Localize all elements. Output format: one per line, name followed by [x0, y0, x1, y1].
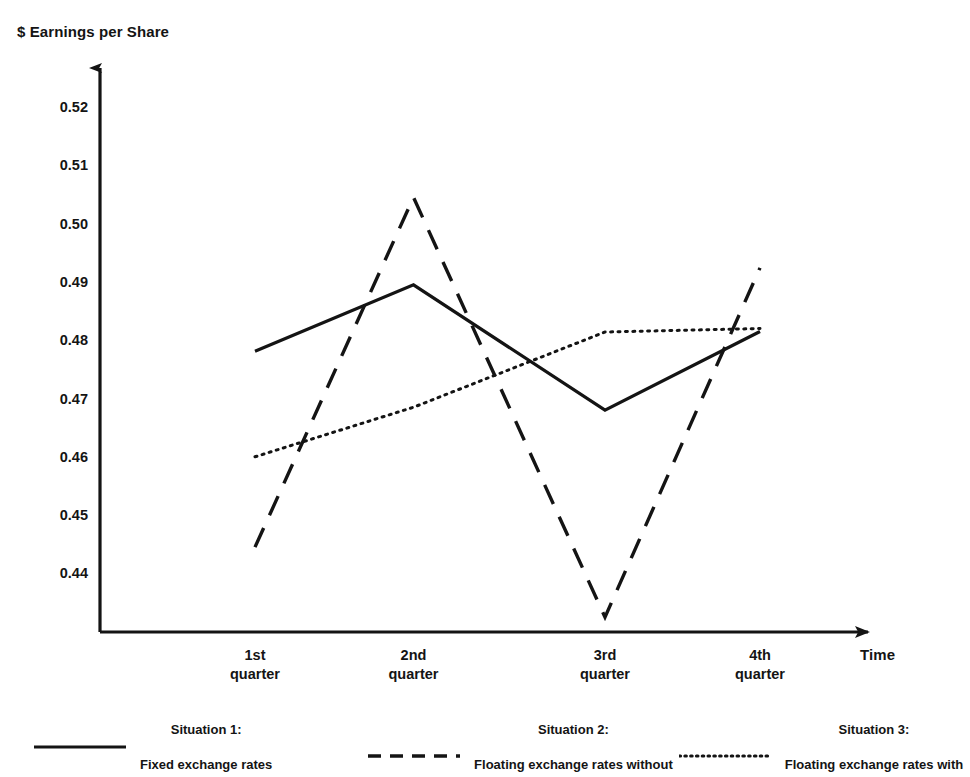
legend-swatch-dotted: [679, 748, 771, 764]
chart-container: $ Earnings per Share Time 0.520.510.500.…: [0, 0, 970, 777]
legend-desc-2: Floating exchange rates without exchange…: [474, 756, 673, 777]
legend-title-3: Situation 3:: [785, 721, 963, 738]
legend-label-situation-1: Situation 1: Fixed exchange rates: [140, 704, 272, 777]
legend-label-situation-3: Situation 3: Floating exchange rates wit…: [785, 704, 963, 777]
legend-label-situation-2: Situation 2: Floating exchange rates wit…: [474, 704, 673, 777]
legend-item-situation-2: Situation 2: Floating exchange rates wit…: [364, 704, 679, 777]
legend: Situation 1: Fixed exchange rates Situat…: [0, 704, 970, 777]
legend-swatch-dashed: [368, 748, 460, 764]
series-line-2: [255, 197, 760, 617]
legend-title-1: Situation 1:: [140, 721, 272, 738]
legend-desc-3: Floating exchange rates with exchange ri…: [785, 756, 963, 777]
plot-area: [0, 0, 970, 777]
series-line-1: [255, 285, 760, 410]
legend-item-situation-3: Situation 3: Floating exchange rates wit…: [679, 704, 970, 777]
series-lines: [255, 197, 760, 617]
legend-swatch-solid: [34, 739, 126, 755]
legend-item-situation-1: Situation 1: Fixed exchange rates: [0, 704, 364, 777]
legend-desc-1: Fixed exchange rates: [140, 756, 272, 773]
legend-title-2: Situation 2:: [474, 721, 673, 738]
